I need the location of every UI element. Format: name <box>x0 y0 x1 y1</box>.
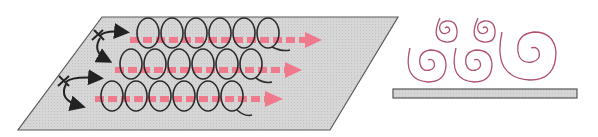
spiral-2 <box>474 18 495 42</box>
substrate-bar <box>393 89 577 98</box>
slanted-surface <box>18 17 398 130</box>
coiled-fibers <box>408 18 556 82</box>
spiral-1 <box>436 18 457 42</box>
spiral-4 <box>454 48 492 82</box>
spiral-3 <box>408 48 446 82</box>
spiral-5 <box>500 32 556 80</box>
fiber-diagram <box>0 0 598 137</box>
